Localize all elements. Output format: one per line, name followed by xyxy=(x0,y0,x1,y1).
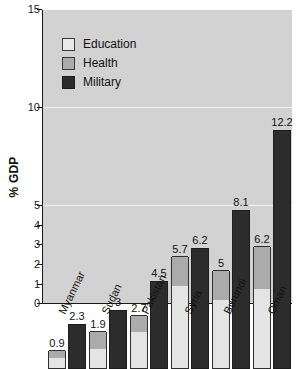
bar-group-burundi: 5 8.1 xyxy=(212,76,250,369)
segment-health-burundi xyxy=(213,270,229,300)
value-label-military-burundi: 8.1 xyxy=(228,197,254,208)
legend-label-education: Education xyxy=(83,37,136,51)
bar-group-pakistan: 2.7 4.5 xyxy=(130,76,168,369)
bar-military-sudan[interactable] xyxy=(109,310,127,369)
ytick-mark-3 xyxy=(37,244,42,245)
segment-health-syria xyxy=(172,256,188,286)
bar-military-oman[interactable] xyxy=(273,130,291,369)
segment-health-myanmar xyxy=(49,350,65,358)
legend-swatch-military-icon xyxy=(62,76,75,89)
bar-group-oman: 6.2 12.2 xyxy=(253,76,291,369)
legend-swatch-education-icon xyxy=(62,38,75,51)
segment-health-pakistan xyxy=(131,315,147,332)
legend-swatch-health-icon xyxy=(62,57,75,70)
ytick-mark-5 xyxy=(37,205,42,206)
value-label-social-sudan: 1.9 xyxy=(85,319,111,330)
segment-education-pakistan xyxy=(131,332,147,368)
segment-health-sudan xyxy=(90,331,106,349)
value-label-social-myanmar: 0.9 xyxy=(44,338,70,349)
ytick-mark-1 xyxy=(37,284,42,285)
value-label-social-burundi: 5 xyxy=(210,258,232,269)
bar-social-pakistan[interactable] xyxy=(130,316,148,369)
y-axis-line xyxy=(42,10,43,304)
bar-social-burundi[interactable] xyxy=(212,271,230,369)
bar-social-myanmar[interactable] xyxy=(48,351,66,369)
legend-label-health: Health xyxy=(83,56,118,70)
bar-group-syria: 5.7 6.2 xyxy=(171,76,209,369)
bar-social-sudan[interactable] xyxy=(89,332,107,369)
gdp-spending-chart: 15 10 5 4 3 2 1 0 % GDP 0.9 2.3 1.9 3 2.… xyxy=(0,0,296,369)
y-axis-title: % GDP xyxy=(7,147,21,207)
legend-label-military: Military xyxy=(83,75,121,89)
ytick-mark-0 xyxy=(37,303,42,304)
segment-education-myanmar xyxy=(49,358,65,368)
segment-education-oman xyxy=(254,289,270,368)
ytick-mark-2 xyxy=(37,264,42,265)
segment-health-oman xyxy=(254,246,270,289)
bar-group-sudan: 1.9 3 xyxy=(89,76,127,369)
value-label-military-oman: 12.2 xyxy=(266,117,296,128)
segment-education-syria xyxy=(172,286,188,368)
value-label-social-oman: 6.2 xyxy=(249,234,275,245)
ytick-mark-15 xyxy=(37,9,42,10)
segment-education-sudan xyxy=(90,349,106,368)
ytick-mark-10 xyxy=(37,107,42,108)
ytick-mark-4 xyxy=(37,225,42,226)
value-label-military-syria: 6.2 xyxy=(187,235,213,246)
bar-military-myanmar[interactable] xyxy=(68,324,86,369)
bar-group-myanmar: 0.9 2.3 xyxy=(48,76,86,369)
